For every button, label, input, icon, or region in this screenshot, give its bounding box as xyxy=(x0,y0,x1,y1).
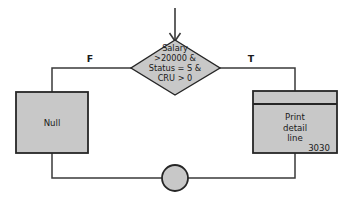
flowchart-canvas: Salary >20000 & Status = S & CRU > 0 F T… xyxy=(0,0,343,203)
merge-connector-circle xyxy=(162,165,188,191)
null-process-box: Null xyxy=(16,92,88,153)
print-box-line-2: detail xyxy=(283,123,307,133)
print-detail-box: Print detail line 3030 xyxy=(253,91,337,153)
decision-line-1: Salary xyxy=(162,43,188,53)
decision-line-4: CRU > 0 xyxy=(158,73,193,83)
decision-line-3: Status = S & xyxy=(149,63,202,73)
true-branch-label: T xyxy=(248,53,255,64)
decision-diamond: Salary >20000 & Status = S & CRU > 0 xyxy=(131,40,220,95)
false-branch-connector xyxy=(52,68,131,92)
print-box-line-1: Print xyxy=(285,112,305,122)
false-branch-label: F xyxy=(87,53,93,64)
false-exit-connector xyxy=(52,153,162,178)
flowchart-diagram: Salary >20000 & Status = S & CRU > 0 F T… xyxy=(0,0,343,203)
print-box-line-3: line xyxy=(287,133,303,143)
true-exit-connector xyxy=(188,153,295,178)
print-box-code: 3030 xyxy=(308,143,330,153)
null-box-label: Null xyxy=(44,118,61,128)
true-branch-connector xyxy=(220,68,295,91)
decision-line-2: >20000 & xyxy=(154,53,197,63)
